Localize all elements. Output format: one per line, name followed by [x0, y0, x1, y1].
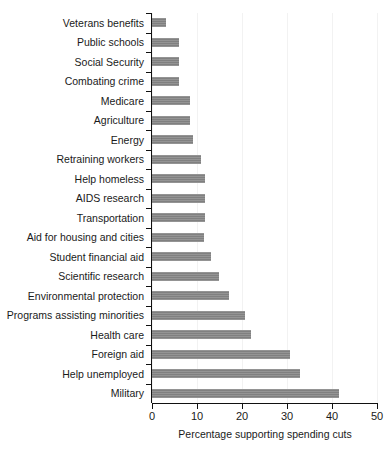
category-label: Programs assisting minorities — [0, 309, 144, 321]
x-tick — [377, 404, 378, 409]
category-label: Health care — [0, 329, 144, 341]
bar — [152, 194, 205, 203]
x-axis-title: Percentage supporting spending cuts — [152, 428, 378, 441]
y-tick — [146, 150, 151, 151]
y-tick — [146, 267, 151, 268]
y-tick — [146, 33, 151, 34]
y-tick — [146, 72, 151, 73]
category-label: Combating crime — [0, 75, 144, 87]
plot-area — [152, 13, 377, 403]
category-label: Public schools — [0, 36, 144, 48]
gridline — [242, 13, 243, 403]
gridline — [332, 13, 333, 403]
y-tick — [146, 189, 151, 190]
category-label: Transportation — [0, 212, 144, 224]
category-label: Help unemployed — [0, 368, 144, 380]
y-tick — [146, 364, 151, 365]
x-tick-label: 50 — [371, 410, 383, 423]
y-tick — [146, 169, 151, 170]
bar — [152, 311, 245, 320]
bar — [152, 369, 300, 378]
bar — [152, 116, 190, 125]
y-tick — [146, 111, 151, 112]
x-tick — [287, 404, 288, 409]
category-label: Energy — [0, 134, 144, 146]
y-tick — [146, 345, 151, 346]
x-tick — [152, 404, 153, 409]
category-label: Retraining workers — [0, 153, 144, 165]
bar — [152, 174, 205, 183]
y-tick — [146, 325, 151, 326]
category-label: Foreign aid — [0, 348, 144, 360]
x-tick — [332, 404, 333, 409]
bar — [152, 18, 166, 27]
bar — [152, 291, 229, 300]
y-tick — [146, 306, 151, 307]
y-axis-line — [151, 13, 152, 403]
y-tick — [146, 52, 151, 53]
bar — [152, 96, 190, 105]
bar — [152, 77, 179, 86]
gridline — [197, 13, 198, 403]
bar — [152, 38, 179, 47]
y-tick — [146, 384, 151, 385]
category-label: Scientific research — [0, 270, 144, 282]
category-label: Agriculture — [0, 114, 144, 126]
category-label: Student financial aid — [0, 251, 144, 263]
gridline — [287, 13, 288, 403]
bar — [152, 57, 179, 66]
category-label: Aid for housing and cities — [0, 231, 144, 243]
gridline — [377, 13, 378, 403]
category-label: Environmental protection — [0, 290, 144, 302]
category-label: Social Security — [0, 56, 144, 68]
bar — [152, 233, 204, 242]
bar-chart: Veterans benefitsPublic schoolsSocial Se… — [0, 0, 387, 449]
category-label: Help homeless — [0, 173, 144, 185]
category-label: Military — [0, 387, 144, 399]
category-label: Medicare — [0, 95, 144, 107]
x-tick-label: 30 — [281, 410, 293, 423]
bar — [152, 330, 251, 339]
bar — [152, 135, 193, 144]
y-tick — [146, 130, 151, 131]
x-tick-label: 10 — [191, 410, 203, 423]
bar — [152, 155, 201, 164]
y-tick — [146, 286, 151, 287]
y-tick — [146, 91, 151, 92]
x-tick-label: 0 — [149, 410, 155, 423]
x-tick-label: 20 — [236, 410, 248, 423]
x-tick-label: 40 — [326, 410, 338, 423]
x-tick — [242, 404, 243, 409]
bar — [152, 389, 339, 398]
y-tick — [146, 13, 151, 14]
y-tick — [146, 228, 151, 229]
bar — [152, 272, 219, 281]
bar — [152, 350, 290, 359]
category-label: Veterans benefits — [0, 17, 144, 29]
bar — [152, 213, 205, 222]
y-tick — [146, 247, 151, 248]
category-label: AIDS research — [0, 192, 144, 204]
y-tick — [146, 208, 151, 209]
x-tick — [197, 404, 198, 409]
bar — [152, 252, 211, 261]
x-axis-line — [152, 403, 378, 404]
